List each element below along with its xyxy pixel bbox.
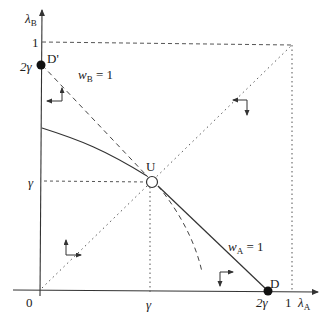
- y-axis-label: λB: [25, 12, 37, 28]
- y-tick-gamma: γ: [28, 176, 33, 189]
- label-d-prime: D': [47, 52, 59, 65]
- label-u: U: [146, 160, 155, 173]
- wb-equals-one-label: wB = 1: [78, 68, 113, 84]
- arrow-pair-lower-right: [220, 272, 233, 286]
- top-boundary-dotted: [42, 42, 292, 45]
- y-axis: [40, 10, 42, 296]
- x-tick-gamma: γ: [146, 298, 151, 311]
- y-tick-two-gamma: 2γ: [20, 60, 32, 73]
- wa-solid-line: [158, 186, 267, 290]
- y-tick-one: 1: [32, 36, 39, 49]
- point-d-prime: [37, 61, 46, 70]
- boundary-curve-solid: [42, 128, 147, 176]
- point-u: [147, 177, 158, 188]
- x-axis-label: λA: [298, 296, 310, 312]
- x-tick-two-gamma: 2γ: [256, 296, 268, 309]
- wa-equals-one-label: wA = 1: [228, 240, 264, 256]
- x-tick-one: 1: [285, 296, 292, 309]
- origin-label: 0: [26, 296, 33, 309]
- phase-diagram: [0, 0, 325, 319]
- arrow-pair-upper-right: [233, 100, 247, 115]
- wb-dashed-curve-lower: [158, 186, 202, 272]
- label-d: D: [270, 277, 279, 290]
- arrow-pair-upper-left: [47, 88, 62, 101]
- gamma-horizontal-dotted: [44, 181, 148, 182]
